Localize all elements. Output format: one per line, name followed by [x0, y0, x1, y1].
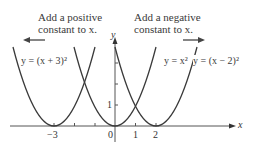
- equation-base: y = x²: [164, 55, 188, 66]
- y-axis-label: y: [111, 29, 115, 40]
- annotation-left-line2: constant to x.: [38, 23, 97, 35]
- annotation-right-line2: constant to x.: [134, 23, 193, 35]
- equation-shift-left: y = (x + 3)²: [21, 55, 67, 66]
- x-axis-arrow-icon: [229, 124, 236, 129]
- left-arrow-icon: [23, 37, 45, 43]
- x-tick-label-neg3: −3: [47, 129, 58, 140]
- parabola-shift-figure: Add a positive constant to x. Add a nega…: [0, 0, 253, 149]
- y-tick-label-1: 1: [107, 99, 112, 110]
- x-tick-label-0: 0: [108, 129, 113, 140]
- right-arrow-icon: [183, 37, 205, 43]
- x-tick-label-2: 2: [153, 129, 158, 140]
- x-axis-label: x: [238, 119, 242, 130]
- annotation-left-line1: Add a positive: [38, 11, 102, 23]
- equation-shift-right: y = (x − 2)²: [193, 55, 239, 66]
- annotation-right-line1: Add a negative: [134, 11, 201, 23]
- x-tick-label-1: 1: [133, 129, 138, 140]
